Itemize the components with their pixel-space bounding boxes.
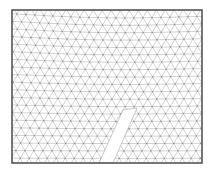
- mesh-edge: [166, 47, 170, 55]
- mesh-edge: [12, 6, 21, 7]
- mesh-edge: [125, 33, 130, 40]
- mesh-edge: [130, 40, 135, 47]
- mesh-edge: [53, 106, 57, 114]
- mesh-node: [15, 165, 16, 166]
- mesh-node: [133, 17, 134, 18]
- mesh-edge: [135, 70, 140, 77]
- mesh-node: [10, 173, 11, 174]
- mesh-node: [146, 143, 147, 144]
- mesh-node: [192, 98, 193, 99]
- mesh-node: [111, 84, 112, 85]
- mesh-node: [147, 39, 148, 40]
- mesh-edge: [4, 97, 8, 105]
- mesh-edge: [21, 113, 25, 121]
- mesh-edge: [112, 18, 116, 25]
- mesh-edge: [48, 136, 53, 143]
- mesh-edge: [49, 23, 54, 31]
- mesh-edge: [166, 77, 171, 84]
- mesh-edge: [94, 77, 99, 84]
- mesh-node: [197, 90, 198, 91]
- mesh-node: [169, 17, 170, 18]
- mesh-node: [78, 165, 79, 166]
- mesh-edge: [125, 99, 130, 106]
- mesh-edge: [112, 84, 116, 91]
- mesh-node: [107, 47, 108, 48]
- mesh-edge: [22, 75, 27, 82]
- mesh-edge: [45, 76, 49, 84]
- mesh-node: [191, 158, 192, 159]
- mesh-edge: [30, 121, 35, 128]
- mesh-edge: [22, 98, 26, 106]
- mesh-node: [188, 46, 189, 47]
- mesh-edge: [98, 121, 102, 128]
- mesh-edge: [111, 107, 116, 114]
- mesh-node: [84, 83, 85, 84]
- mesh-edge: [148, 77, 153, 84]
- mesh-edge: [102, 136, 107, 143]
- mesh-node: [156, 24, 157, 25]
- mesh-edge: [43, 136, 47, 144]
- mesh-edge: [196, 128, 201, 136]
- mesh-node: [70, 135, 71, 136]
- mesh-edge: [76, 24, 81, 32]
- mesh-edge: [62, 106, 66, 114]
- mesh-edge: [36, 53, 40, 60]
- mesh-edge: [161, 114, 166, 121]
- mesh-node: [177, 165, 178, 166]
- mesh-edge: [153, 69, 158, 76]
- mesh-edge: [143, 114, 148, 121]
- mesh-edge: [85, 54, 90, 62]
- mesh-node: [152, 91, 153, 92]
- mesh-edge: [31, 75, 36, 82]
- mesh-node: [6, 165, 7, 166]
- mesh-edge: [148, 55, 153, 62]
- mesh-edge: [107, 107, 111, 114]
- mesh-edge: [130, 70, 134, 77]
- mesh-edge: [175, 69, 179, 76]
- mesh-edge: [85, 25, 90, 33]
- mesh-edge: [90, 62, 95, 69]
- mesh-node: [208, 173, 209, 174]
- mesh-edge: [25, 136, 29, 144]
- mesh-edge: [89, 25, 93, 32]
- mesh-node: [34, 105, 35, 106]
- mesh-edge: [210, 136, 211, 144]
- mesh-edge: [205, 158, 210, 165]
- mesh-edge: [170, 106, 174, 113]
- mesh-edge: [184, 99, 188, 106]
- mesh-node: [170, 61, 171, 62]
- mesh-node: [178, 106, 179, 107]
- mesh-node: [165, 24, 166, 25]
- mesh-edge: [98, 92, 102, 99]
- mesh-edge: [16, 135, 20, 143]
- mesh-edge: [103, 33, 107, 40]
- mesh-edge: [151, 144, 156, 151]
- mesh-edge: [103, 70, 107, 77]
- mesh-edge: [35, 98, 40, 105]
- mesh-node: [174, 24, 175, 25]
- mesh-edge: [97, 136, 101, 143]
- mesh-edge: [94, 92, 99, 99]
- mesh-node: [143, 91, 144, 92]
- mesh-edge: [88, 136, 92, 143]
- mesh-node: [109, 172, 110, 173]
- mesh-node: [79, 120, 80, 121]
- mesh-node: [74, 143, 75, 144]
- mesh-edge: [147, 144, 151, 151]
- mesh-edge: [196, 166, 200, 173]
- mesh-node: [88, 17, 89, 18]
- mesh-edge: [53, 121, 57, 129]
- mesh-node: [47, 8, 48, 9]
- mesh-edge: [195, 173, 200, 174]
- mesh-edge: [161, 32, 166, 39]
- mesh-edge: [192, 106, 197, 114]
- mesh-edge: [49, 83, 53, 91]
- mesh-node: [116, 32, 117, 33]
- mesh-edge: [76, 99, 80, 107]
- mesh-edge: [153, 47, 158, 54]
- mesh-edge: [165, 129, 169, 136]
- mesh-node: [209, 8, 210, 9]
- mesh-edge: [129, 129, 133, 136]
- mesh-edge: [179, 106, 183, 113]
- mesh-node: [61, 16, 62, 17]
